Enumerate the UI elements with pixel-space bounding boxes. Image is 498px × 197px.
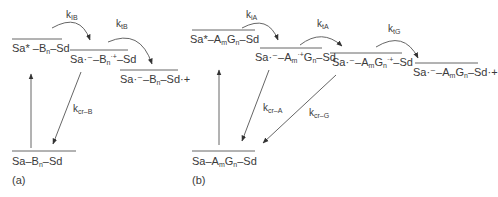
state-a-excited: Sa* –Bn–Sd xyxy=(12,43,70,54)
state-text: Sa·⁻–A xyxy=(413,66,450,78)
state-text: G xyxy=(227,33,236,45)
rate-b-k1: kiA xyxy=(246,10,257,20)
state-b-cs3: Sa·⁻–AmGn–Sd·+ xyxy=(413,67,498,78)
state-text: Sa·⁻–B xyxy=(120,73,157,85)
state-text: –Sd xyxy=(43,155,63,167)
state-b-cs1: Sa·⁻–Am·+Gn–Sd xyxy=(255,52,336,63)
rate-a-k2: ktB xyxy=(116,19,128,29)
state-text: –Sd·+ xyxy=(160,73,190,85)
state-a-cs1: Sa·⁻–Bn·+–Sd xyxy=(70,54,136,65)
state-a-ground: Sa–Bn–Sd xyxy=(12,156,62,167)
state-text: G xyxy=(374,56,383,68)
state-text: –Sd xyxy=(393,56,413,68)
state-text: –Sd xyxy=(50,42,70,54)
state-b-excited: Sa*–AmGn–Sd xyxy=(190,34,259,45)
rate-subscript: tG xyxy=(393,28,400,35)
state-text: G xyxy=(455,66,464,78)
rate-subscript: cr–A xyxy=(268,107,282,114)
state-text: –Sd xyxy=(240,33,260,45)
state-text: Sa–B xyxy=(12,155,39,167)
rate-b-k2: ktA xyxy=(317,19,329,29)
rate-b-k4: kcr–A xyxy=(263,103,282,113)
state-b-ground: Sa–AmGn–Sd xyxy=(192,156,257,167)
state-text: Sa·⁻–A xyxy=(332,56,369,68)
state-text: Sa–A xyxy=(192,155,219,167)
rate-a-k1: kIB xyxy=(66,10,78,20)
subscript: n xyxy=(107,59,111,66)
state-text: –Sd·+ xyxy=(468,66,498,78)
rate-b-k5: kcr–G xyxy=(309,108,329,118)
state-text: Sa*–A xyxy=(190,33,221,45)
state-text: Sa·⁻–B xyxy=(70,53,107,65)
panel-a-tag: (a) xyxy=(12,174,25,186)
panel-b-tag: (b) xyxy=(192,174,205,186)
state-text: Sa* –B xyxy=(12,42,46,54)
rate-subscript: IB xyxy=(71,14,78,21)
rate-subscript: tB xyxy=(121,23,128,30)
rate-b-k3: ktG xyxy=(388,24,400,34)
diagram-lines xyxy=(0,0,498,197)
rate-subscript: iA xyxy=(251,14,257,21)
state-text: –Sd xyxy=(117,53,137,65)
state-a-cs2: Sa·⁻–Bn–Sd·+ xyxy=(120,74,190,85)
subscript: n xyxy=(383,62,387,69)
rate-subscript: cr–B xyxy=(78,108,92,115)
state-text: Sa·⁻–A xyxy=(255,51,292,63)
state-text: –Sd xyxy=(237,155,257,167)
rate-a-k3: kcr–B xyxy=(73,104,92,114)
rate-subscript: cr–G xyxy=(314,112,329,119)
subscript: m xyxy=(292,57,298,64)
state-b-cs2: Sa·⁻–AmGn·+–Sd xyxy=(332,57,413,68)
rate-subscript: tA xyxy=(322,23,329,30)
